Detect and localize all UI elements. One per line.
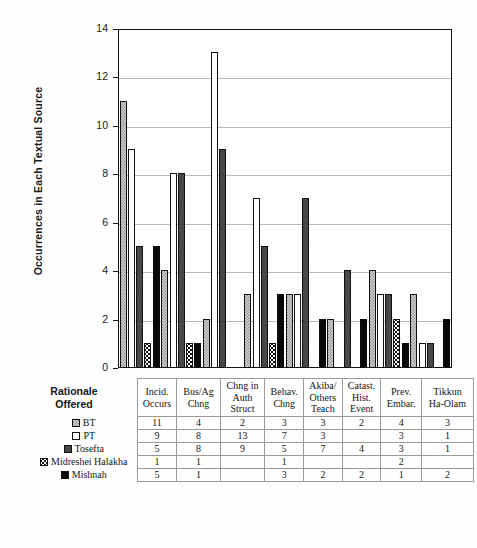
column-header-4: Akiba/OthersTeach — [304, 379, 342, 417]
bar-mishnah-7 — [443, 319, 450, 367]
bar-pt-0 — [128, 149, 135, 367]
column-header-5: Catast.Hist.Event — [342, 379, 381, 417]
table-body: BT114233243PT98137331Tosefta58957431Midr… — [31, 417, 474, 482]
table-cell: 1 — [137, 456, 177, 469]
column-header-line: Incid. — [138, 386, 177, 398]
legend-label: BT — [83, 417, 96, 428]
data-table: Rationale Offered Incid.OccursBus/AgChng… — [31, 378, 474, 482]
table-cell: 1 — [421, 430, 473, 443]
column-header-line: Hist. — [343, 392, 381, 404]
bar-tosefta-0 — [136, 246, 143, 367]
legend-label: PT — [83, 430, 95, 441]
table-cell: 1 — [421, 443, 473, 456]
bar-group-2 — [202, 30, 244, 367]
bar-groups — [119, 30, 451, 367]
column-header-line: Event — [343, 403, 381, 415]
bar-group-3 — [244, 30, 286, 367]
table-corner-cell: Rationale Offered — [31, 379, 137, 417]
bar-tosefta-5 — [344, 270, 351, 367]
table-cell: 1 — [177, 469, 220, 482]
table-cell: 2 — [342, 417, 381, 430]
table-cell: 1 — [381, 469, 421, 482]
table-cell: 3 — [304, 430, 342, 443]
table-header-row: Rationale Offered Incid.OccursBus/AgChng… — [31, 379, 474, 417]
x-axis-title: Rationale Offered — [31, 385, 117, 411]
bar-bt-1 — [161, 270, 168, 367]
legend-swatch-icon — [61, 471, 69, 479]
legend-swatch-icon — [64, 445, 72, 453]
y-tick-label-8: 8 — [74, 167, 108, 179]
table-cell: 2 — [220, 417, 265, 430]
bar-bt-3 — [244, 294, 251, 367]
column-header-line: Behav. — [265, 386, 303, 398]
legend-swatch-icon — [72, 419, 80, 427]
bar-mishnah-0 — [153, 246, 160, 367]
y-tick-mark-0 — [113, 368, 118, 369]
table-cell: 2 — [304, 469, 342, 482]
legend-swatch-icon — [40, 458, 48, 466]
y-tick-label-4: 4 — [74, 264, 108, 276]
bar-pt-4 — [294, 294, 301, 367]
table-cell: 2 — [342, 469, 381, 482]
bar-group-7 — [410, 30, 452, 367]
table-cell: 7 — [265, 430, 304, 443]
x-axis-title-line2: Offered — [31, 398, 117, 411]
table-row: BT114233243 — [31, 417, 474, 430]
y-tick-label-6: 6 — [74, 216, 108, 228]
legend-label: Midreshei Halakha — [51, 456, 127, 467]
table-cell: 9 — [220, 443, 265, 456]
table-cell — [220, 456, 265, 469]
table-cell — [421, 456, 473, 469]
table-cell — [342, 456, 381, 469]
bar-tosefta-1 — [178, 173, 185, 367]
legend-swatch-icon — [72, 432, 80, 440]
y-tick-label-10: 10 — [74, 119, 108, 131]
data-table-wrapper: Rationale Offered Incid.OccursBus/AgChng… — [31, 378, 474, 482]
table-cell: 4 — [177, 417, 220, 430]
column-header-line: Struct — [221, 403, 265, 415]
table-cell: 5 — [137, 469, 177, 482]
bar-midreshei-halakha-6 — [393, 319, 400, 367]
column-header-2: Chng inAuthStruct — [220, 379, 265, 417]
column-header-line: Chng — [265, 398, 303, 410]
column-header-line: Akiba/ — [304, 380, 341, 392]
y-tick-label-2: 2 — [74, 313, 108, 325]
bar-bt-0 — [120, 101, 127, 367]
table-cell — [220, 469, 265, 482]
y-axis: 14121086420 — [0, 0, 118, 400]
bar-group-4 — [285, 30, 327, 367]
bar-mishnah-5 — [360, 319, 367, 367]
table-row: Mishnah5132212 — [31, 469, 474, 482]
table-cell: 7 — [304, 443, 342, 456]
figure: Occurrences in Each Textual Source 14121… — [0, 0, 477, 548]
bar-mishnah-4 — [319, 319, 326, 367]
table-cell: 2 — [421, 469, 473, 482]
column-header-line: Bus/Ag — [177, 386, 219, 398]
table-cell: 1 — [177, 456, 220, 469]
bar-mishnah-1 — [194, 343, 201, 367]
y-tick-label-14: 14 — [74, 22, 108, 34]
table-cell: 3 — [421, 417, 473, 430]
column-header-line: Auth — [221, 392, 265, 404]
table-cell: 13 — [220, 430, 265, 443]
table-cell: 8 — [177, 443, 220, 456]
table-row: PT98137331 — [31, 430, 474, 443]
table-cell: 1 — [265, 456, 304, 469]
bar-group-5 — [327, 30, 369, 367]
plot-area — [118, 29, 452, 368]
table-cell: 3 — [381, 430, 421, 443]
y-tick-label-12: 12 — [74, 70, 108, 82]
table-cell — [304, 456, 342, 469]
bar-tosefta-3 — [261, 246, 268, 367]
bar-group-6 — [368, 30, 410, 367]
x-axis-title-line1: Rationale — [50, 385, 97, 397]
bar-midreshei-halakha-0 — [144, 343, 151, 367]
column-header-line: Others — [304, 392, 341, 404]
column-header-line: Chng in — [221, 380, 265, 392]
bar-tosefta-6 — [385, 294, 392, 367]
column-header-line: Catast. — [343, 380, 381, 392]
legend-item-pt: PT — [31, 430, 137, 443]
bar-pt-7 — [419, 343, 426, 367]
table-cell: 9 — [137, 430, 177, 443]
table-cell: 11 — [137, 417, 177, 430]
